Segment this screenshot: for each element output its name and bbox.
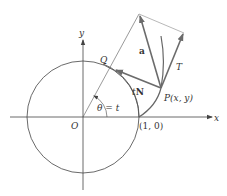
angle-label: θ = t — [97, 103, 120, 113]
point-p-label: P(x, y) — [163, 93, 193, 103]
point-q-label: Q — [100, 55, 108, 65]
x-axis-label: x — [214, 113, 219, 123]
parallelogram-edge — [139, 14, 184, 33]
vector-tn — [116, 70, 161, 88]
vector-tn-label: tN — [132, 87, 144, 97]
origin-label: O — [71, 121, 79, 131]
vector-t-label: T — [176, 62, 183, 72]
point-one-zero-label: (1, 0) — [139, 121, 163, 131]
y-axis-label: y — [78, 28, 85, 38]
involute-diagram: y x O Q θ = t (1, 0) P(x, y) a T tN — [0, 0, 227, 196]
vector-t — [161, 34, 183, 88]
vector-a-label: a — [139, 46, 145, 56]
radius-line-oq — [83, 14, 139, 117]
